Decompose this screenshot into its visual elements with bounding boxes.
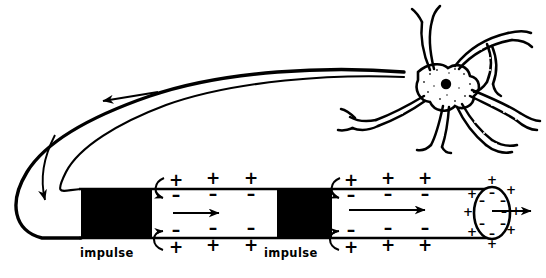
svg-text:+: + — [487, 173, 497, 187]
svg-text:–: – — [421, 184, 430, 204]
svg-text:–: – — [172, 185, 181, 205]
svg-text:+: + — [467, 225, 477, 239]
svg-text:+: + — [506, 223, 516, 237]
svg-text:+: + — [506, 183, 516, 197]
svg-text:–: – — [479, 194, 485, 208]
svg-text:–: – — [347, 185, 356, 205]
svg-text:–: – — [247, 184, 256, 204]
svg-text:–: – — [479, 217, 485, 231]
svg-text:+: + — [169, 237, 183, 257]
svg-text:–: – — [384, 184, 393, 204]
impulse-label-left: impulse — [80, 246, 134, 260]
svg-text:–: – — [209, 184, 218, 204]
svg-text:+: + — [467, 187, 477, 201]
svg-text:+: + — [463, 205, 473, 219]
svg-text:+: + — [206, 235, 220, 255]
svg-text:–: – — [489, 227, 495, 241]
svg-text:+: + — [381, 235, 395, 255]
svg-text:–: – — [500, 217, 506, 231]
diagram-canvas: + + + + + + – – – – – – – – – – – – + + — [0, 0, 546, 278]
svg-text:+: + — [511, 204, 521, 218]
nucleus — [441, 79, 451, 89]
neuron-impulse-diagram: + + + + + + – – – – – – – – – – – – + + — [0, 0, 546, 278]
active-region-1 — [81, 188, 152, 239]
svg-text:–: – — [489, 186, 495, 200]
neuron-cell-body — [417, 64, 479, 110]
svg-text:+: + — [418, 235, 432, 255]
svg-text:+: + — [244, 235, 258, 255]
active-region-2 — [277, 188, 332, 239]
svg-text:+: + — [344, 237, 358, 257]
impulse-label-right: impulse — [264, 246, 318, 260]
